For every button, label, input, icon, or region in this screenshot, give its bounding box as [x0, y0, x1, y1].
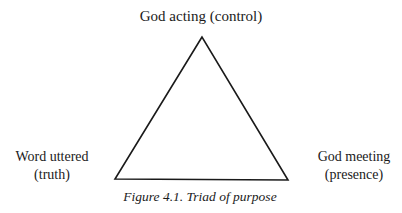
vertex-label-line: (presence)	[306, 166, 402, 184]
vertex-label-god-meeting: God meeting (presence)	[306, 148, 402, 184]
vertex-label-line: (truth)	[4, 166, 100, 184]
vertex-label-line: God acting (control)	[130, 7, 272, 25]
vertex-label-line: God meeting	[306, 148, 402, 166]
vertex-label-word-uttered: Word uttered (truth)	[4, 148, 100, 184]
vertex-label-god-acting: God acting (control)	[130, 7, 272, 25]
figure-caption: Figure 4.1. Triad of purpose	[100, 189, 300, 205]
vertex-label-line: Word uttered	[4, 148, 100, 166]
